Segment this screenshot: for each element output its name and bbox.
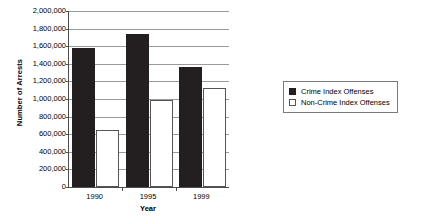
legend-label: Crime Index Offenses (301, 87, 373, 96)
y-axis-tick-mark (66, 169, 69, 170)
x-axis-tick-label: 1999 (193, 192, 210, 201)
y-axis-tick-label: 600,000 (39, 130, 66, 138)
chart-legend: Crime Index Offenses Non-Crime Index Off… (283, 81, 398, 113)
y-axis-tick-label: 200,000 (39, 165, 66, 173)
x-axis-tick-mark (176, 187, 177, 191)
y-axis-tick-mark (66, 64, 69, 65)
bar (203, 88, 226, 187)
x-axis-title: Year (68, 204, 228, 213)
y-axis-tick-mark (66, 46, 69, 47)
y-axis-tick-mark (66, 99, 69, 100)
bar (179, 67, 202, 187)
legend-item-non-crime-index-offenses: Non-Crime Index Offenses (289, 97, 390, 108)
y-axis-tick-mark (66, 117, 69, 118)
y-axis-tick-label: 400,000 (39, 148, 66, 156)
x-axis-tick-label: 1990 (86, 192, 103, 201)
bar-group-container (69, 11, 229, 187)
bar (150, 100, 173, 187)
legend-label: Non-Crime Index Offenses (301, 98, 390, 107)
bar-chart-figure: Number of Arrests 0200,000400,000600,000… (0, 0, 430, 223)
y-axis-tick-labels: 0200,000400,000600,000800,0001,000,0001,… (18, 11, 66, 187)
y-axis-tick-mark (66, 81, 69, 82)
x-axis-tick-labels: 199019951999 (68, 192, 228, 204)
x-axis-tick-mark (122, 187, 123, 191)
y-axis-tick-label: 1,400,000 (33, 60, 66, 68)
legend-swatch-light-icon (289, 99, 296, 106)
y-axis-tick-mark (66, 134, 69, 135)
legend-item-crime-index-offenses: Crime Index Offenses (289, 86, 390, 97)
legend-swatch-dark-icon (289, 88, 296, 95)
x-axis-tick-label: 1995 (140, 192, 157, 201)
bar (72, 48, 95, 187)
y-axis-tick-label: 800,000 (39, 113, 66, 121)
y-axis-tick-label: 1,800,000 (33, 25, 66, 33)
y-axis-tick-mark (66, 187, 69, 188)
y-axis-tick-label: 2,000,000 (33, 7, 66, 15)
y-axis-tick-label: 1,200,000 (33, 77, 66, 85)
y-axis-tick-mark (66, 29, 69, 30)
y-axis-tick-label: 1,000,000 (33, 95, 66, 103)
plot-area (68, 11, 229, 188)
bar (126, 34, 149, 187)
y-axis-tick-mark (66, 11, 69, 12)
y-axis-tick-label: 1,600,000 (33, 42, 66, 50)
y-axis-tick-mark (66, 152, 69, 153)
bar (96, 130, 119, 187)
